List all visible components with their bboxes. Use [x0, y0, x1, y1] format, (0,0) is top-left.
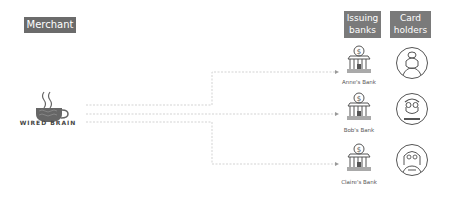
svg-text:$: $	[357, 48, 361, 56]
man-glasses-avatar-icon	[395, 92, 429, 126]
woman-avatar-icon	[395, 46, 429, 80]
bank-label: Claire's Bank	[334, 179, 384, 185]
connector-lines	[0, 0, 451, 200]
svg-text:$: $	[357, 146, 361, 154]
bank-dollar-icon: $	[344, 143, 374, 173]
bank-dollar-icon: $	[344, 92, 374, 122]
bank-label: Bob's Bank	[334, 127, 384, 133]
woman-glasses-avatar-icon	[395, 143, 429, 177]
bank-label: Anne's Bank	[334, 79, 384, 85]
bank-dollar-icon: $	[344, 45, 374, 75]
svg-text:$: $	[357, 95, 361, 103]
